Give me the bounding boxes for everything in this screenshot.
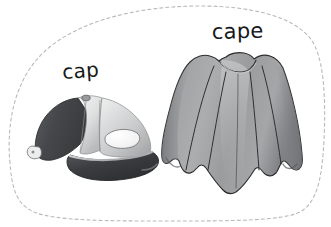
- cap-label: cap: [62, 59, 100, 82]
- cape-illustration: [0, 0, 331, 227]
- cape-label: cape: [211, 21, 263, 43]
- worksheet-card: cap cape: [0, 0, 331, 227]
